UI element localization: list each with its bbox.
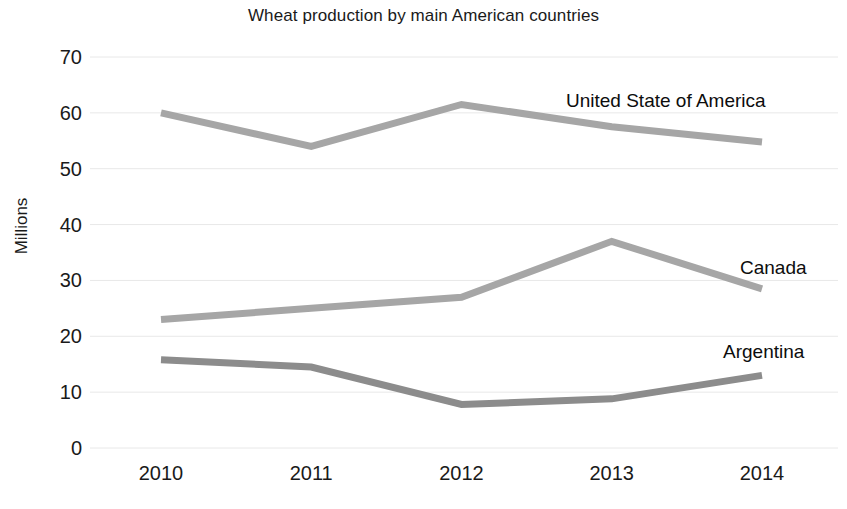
series-line[interactable] [161,360,762,405]
gridlines [90,57,838,448]
plot-area [0,0,847,509]
series-label: Canada [740,257,807,279]
series-label: Argentina [723,341,804,363]
series-lines [161,104,762,404]
wheat-production-line-chart: Wheat production by main American countr… [0,0,847,509]
series-label: United State of America [566,90,766,112]
